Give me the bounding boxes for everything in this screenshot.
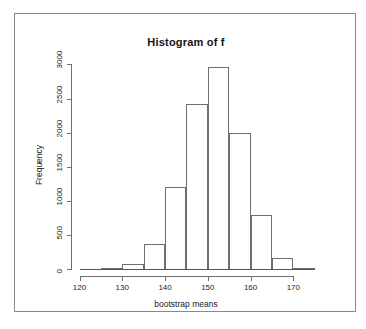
x-axis-line	[80, 276, 294, 277]
histogram-bar	[186, 104, 207, 270]
x-axis-tick-label: 160	[244, 283, 257, 292]
y-axis-title: Frequency	[33, 61, 45, 269]
x-axis-tick	[251, 276, 252, 281]
x-axis-tick	[80, 276, 81, 281]
histogram-baseline	[80, 269, 315, 270]
histogram-bar	[144, 244, 165, 270]
x-axis: 120130140150160170	[71, 276, 319, 290]
histogram-bar	[208, 67, 229, 270]
histogram-bar	[251, 215, 272, 270]
y-axis-tick-label: 1500	[60, 162, 69, 180]
y-axis-tick-label: 500	[60, 233, 69, 246]
x-axis-title: bootstrap means	[15, 299, 357, 309]
y-axis-tick-label: 3000	[60, 60, 69, 78]
x-axis-tick	[293, 276, 294, 281]
histogram-bar	[229, 133, 250, 270]
y-axis-tick	[67, 269, 72, 270]
figure-frame: Histogram of f Frequency 050010001500200…	[14, 13, 356, 312]
page-title: Histogram of f	[15, 36, 357, 48]
y-axis-tick-label: 2000	[60, 128, 69, 146]
y-axis-tick-label: 0	[60, 271, 69, 275]
x-axis-tick	[165, 276, 166, 281]
plot-area	[71, 61, 319, 269]
x-axis-tick-label: 170	[287, 283, 300, 292]
x-axis-tick-label: 150	[201, 283, 214, 292]
x-axis-tick-label: 130	[116, 283, 129, 292]
x-axis-tick-label: 140	[158, 283, 171, 292]
histogram-bars	[71, 61, 319, 269]
x-axis-tick	[122, 276, 123, 281]
y-axis: 050010001500200025003000	[56, 61, 72, 269]
x-axis-tick	[208, 276, 209, 281]
y-axis-tick-label: 2500	[60, 94, 69, 112]
y-axis-tick-label: 1000	[60, 196, 69, 214]
histogram-bar	[165, 187, 186, 270]
x-axis-tick-label: 120	[73, 283, 86, 292]
y-axis-title-label: Frequency	[34, 145, 44, 185]
